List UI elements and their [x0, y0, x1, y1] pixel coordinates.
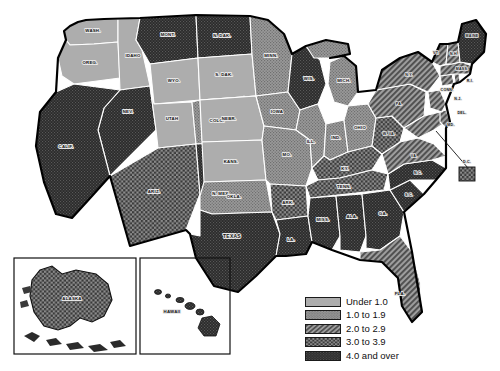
label-minn: MINN.: [264, 53, 277, 58]
label-ala: ALA.: [346, 214, 357, 219]
label-conn: CONN.: [441, 88, 454, 92]
label-alaska: ALASKA: [62, 296, 81, 301]
legend-row-2[interactable]: 1.0 to 1.9: [305, 309, 425, 322]
legend-label-under-1: Under 1.0: [346, 297, 388, 307]
legend-label-3-to-3-9: 3.0 to 3.9: [346, 337, 386, 347]
legend-swatch-under-1: [305, 297, 341, 307]
label-nh: N.H.: [450, 52, 458, 56]
label-la: LA.: [287, 237, 295, 242]
label-ark: ARK.: [282, 200, 294, 205]
label-ndak: N. DAK.: [213, 33, 231, 38]
legend-row-4[interactable]: 3.0 to 3.9: [305, 336, 425, 349]
label-mo: MO.: [283, 152, 292, 157]
label-kans: KANS.: [224, 159, 239, 164]
legend-swatch-1-to-1-9: [305, 310, 341, 320]
label-ga: GA.: [379, 211, 387, 216]
label-hawaii: HAWAII: [164, 309, 181, 314]
state-sdak[interactable]: [198, 54, 256, 100]
label-iowa: IOWA: [271, 109, 283, 114]
label-idaho: IDAHO: [125, 53, 141, 58]
dc-swatch: [459, 167, 475, 181]
label-wyo: WYO.: [168, 78, 180, 83]
label-ariz: ARIZ.: [148, 189, 160, 194]
alaska-aleutians: [24, 332, 126, 352]
label-nev: NEV.: [123, 109, 134, 114]
legend-label-2-to-2-9: 2.0 to 2.9: [346, 324, 386, 334]
label-vt: VT.: [433, 51, 439, 55]
legend-label-4-and-over: 4.0 and over: [346, 351, 399, 361]
label-okla: OKLA.: [227, 194, 242, 199]
legend-row-5[interactable]: 4.0 and over: [305, 349, 425, 362]
state-ala[interactable]: [336, 194, 366, 252]
label-texas: TEXAS: [223, 233, 241, 239]
label-calif: CALIF.: [59, 144, 74, 149]
label-ky: KY.: [341, 166, 348, 171]
label-dc: D.C.: [463, 160, 471, 164]
label-mont: MONT.: [161, 32, 176, 37]
contiguous-states: [36, 15, 486, 322]
legend-row-1[interactable]: Under 1.0: [305, 295, 425, 308]
legend-label-1-to-1-9: 1.0 to 1.9: [346, 310, 386, 320]
label-wva: W. VA.: [383, 132, 395, 136]
alaska-inset[interactable]: ALASKA: [14, 258, 136, 354]
legend-row-3[interactable]: 2.0 to 2.9: [305, 322, 425, 335]
label-mich: MICH.: [337, 78, 350, 83]
label-ohio: OHIO: [354, 125, 366, 130]
label-mass: MASS.: [456, 67, 469, 71]
label-ri: R.I.: [467, 79, 474, 83]
label-wash: WASH.: [85, 28, 100, 33]
legend-swatch-2-to-2-9: [305, 324, 341, 334]
state-nj[interactable]: [428, 90, 446, 112]
label-nj: N.J.: [454, 97, 462, 101]
label-sc: S.C.: [405, 193, 413, 197]
label-oreg: OREG.: [82, 60, 97, 65]
label-ill: ILL.: [307, 139, 316, 144]
label-maine: MAINE: [466, 34, 479, 38]
label-md: MD.: [447, 123, 454, 127]
label-pa: PA.: [396, 102, 402, 106]
label-nebr: NEBR.: [222, 116, 237, 121]
label-ny: N.Y.: [405, 73, 413, 77]
state-la[interactable]: [276, 216, 312, 256]
state-texas[interactable]: [190, 210, 280, 292]
label-sdak: S. DAK.: [215, 72, 233, 77]
state-mont[interactable]: [136, 15, 198, 64]
label-nc: N.C.: [414, 171, 422, 175]
map-legend: Under 1.0 1.0 to 1.9 2.0 to 2.9: [305, 295, 425, 363]
label-va: VA.: [411, 154, 417, 158]
map-svg: WASH. OREG. IDAHO MONT. WYO. NEV. CALIF.…: [0, 0, 500, 371]
label-ind: IND.: [331, 135, 341, 140]
label-wis: WIS.: [304, 76, 314, 81]
label-tenn: TENN.: [337, 184, 351, 189]
label-del: DEL.: [457, 111, 466, 115]
legend-swatch-4-and-over: [305, 351, 341, 361]
legend-swatch-3-to-3-9: [305, 337, 341, 347]
label-miss: MISS.: [317, 217, 330, 222]
label-utah: UTAH: [166, 116, 179, 121]
us-choropleth-map: WASH. OREG. IDAHO MONT. WYO. NEV. CALIF.…: [0, 0, 500, 371]
